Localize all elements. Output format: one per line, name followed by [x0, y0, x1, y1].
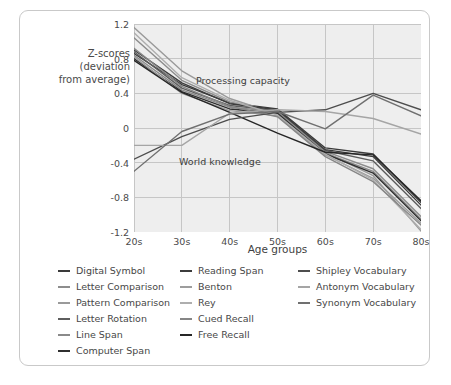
legend-item-label: Free Recall	[198, 327, 250, 343]
y-tick-label: -0.8	[89, 192, 129, 203]
legend-swatch-icon	[298, 302, 310, 305]
legend-column-3: Shipley VocabularyAntonym VocabularySyno…	[298, 263, 430, 311]
legend-swatch-icon	[58, 350, 70, 353]
legend-swatch-icon	[58, 270, 70, 273]
legend-item-label: Reading Span	[198, 263, 263, 279]
legend-swatch-icon	[58, 334, 70, 337]
legend-item[interactable]: Letter Comparison	[58, 279, 188, 295]
legend-item-label: Rey	[198, 295, 216, 311]
chart-legend: Digital SymbolLetter ComparisonPattern C…	[20, 263, 431, 363]
legend-item[interactable]: Shipley Vocabulary	[298, 263, 430, 279]
annotation-world-knowledge: World knowledge	[179, 156, 261, 167]
legend-item-label: Digital Symbol	[76, 263, 145, 279]
y-tick-label: -0.4	[89, 157, 129, 168]
plot-area	[134, 24, 421, 232]
legend-item-label: Line Span	[76, 327, 123, 343]
legend-swatch-icon	[58, 318, 70, 321]
line-chart-svg	[134, 24, 421, 232]
legend-item-label: Pattern Comparison	[76, 295, 170, 311]
gridlines	[134, 24, 421, 232]
legend-item[interactable]: Rey	[180, 295, 300, 311]
legend-swatch-icon	[180, 286, 192, 289]
legend-swatch-icon	[298, 286, 310, 289]
legend-column-1: Digital SymbolLetter ComparisonPattern C…	[58, 263, 188, 359]
legend-item[interactable]: Pattern Comparison	[58, 295, 188, 311]
legend-swatch-icon	[180, 318, 192, 321]
legend-swatch-icon	[180, 334, 192, 337]
legend-item-label: Benton	[198, 279, 232, 295]
y-tick-label: 0.8	[89, 53, 129, 64]
legend-item[interactable]: Benton	[180, 279, 300, 295]
x-axis-title: Age groups	[134, 243, 421, 255]
legend-item-label: Synonym Vocabulary	[316, 295, 416, 311]
legend-item[interactable]: Free Recall	[180, 327, 300, 343]
legend-swatch-icon	[58, 302, 70, 305]
legend-item[interactable]: Cued Recall	[180, 311, 300, 327]
legend-swatch-icon	[298, 270, 310, 273]
legend-item[interactable]: Synonym Vocabulary	[298, 295, 430, 311]
legend-item-label: Antonym Vocabulary	[316, 279, 415, 295]
legend-item-label: Computer Span	[76, 343, 150, 359]
annotation-processing-capacity: Processing capacity	[196, 75, 290, 86]
plot-wrap: 1.20.80.40-0.4-0.8-1.2 20s30s40s50s60s70…	[134, 24, 421, 232]
y-tick-label: 0.4	[89, 88, 129, 99]
legend-swatch-icon	[180, 302, 192, 305]
y-tick-label: 0	[89, 123, 129, 134]
legend-item[interactable]: Line Span	[58, 327, 188, 343]
legend-item[interactable]: Letter Rotation	[58, 311, 188, 327]
legend-item-label: Shipley Vocabulary	[316, 263, 407, 279]
legend-item-label: Letter Rotation	[76, 311, 147, 327]
legend-item[interactable]: Digital Symbol	[58, 263, 188, 279]
legend-item-label: Cued Recall	[198, 311, 254, 327]
legend-item[interactable]: Reading Span	[180, 263, 300, 279]
legend-item[interactable]: Computer Span	[58, 343, 188, 359]
figure-card: Z-scores (deviation from average) 1.20.8…	[19, 10, 430, 366]
legend-column-2: Reading SpanBentonReyCued RecallFree Rec…	[180, 263, 300, 343]
legend-item[interactable]: Antonym Vocabulary	[298, 279, 430, 295]
legend-swatch-icon	[58, 286, 70, 289]
chart-region: Z-scores (deviation from average) 1.20.8…	[20, 11, 431, 261]
legend-item-label: Letter Comparison	[76, 279, 164, 295]
y-tick-label: 1.2	[89, 19, 129, 30]
legend-swatch-icon	[180, 270, 192, 273]
